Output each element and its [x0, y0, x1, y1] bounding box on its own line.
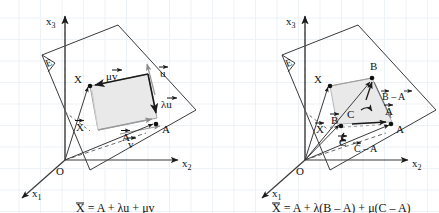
right-diagram: x3 x2 x1 O E X A B C X A B C B – A: [262, 15, 436, 213]
vector-label-X: X: [315, 123, 324, 135]
left-equation: X = A + λu + μv: [76, 201, 155, 213]
point-X-dot: [88, 84, 93, 89]
point-label-X: X: [314, 73, 322, 85]
svg-text:μv: μv: [106, 70, 118, 82]
right-equation: X = A + λ(B – A) + μ(C – A): [272, 201, 411, 213]
vector-geometry-figure: x3 x2 x1 O E X A X A u v λu: [0, 0, 439, 213]
left-diagram: x3 x2 x1 O E X A X A u v λu: [22, 15, 196, 213]
svg-text:X: X: [76, 121, 84, 133]
point-A-dot: [154, 122, 159, 127]
point-label-X: X: [74, 73, 82, 85]
vector-label-C: C: [338, 136, 347, 148]
axis-x2-label: x2: [412, 157, 422, 172]
point-B-dot: [370, 76, 375, 81]
svg-text:A: A: [385, 105, 393, 117]
svg-text:B – A: B – A: [382, 91, 406, 102]
vector-label-A: A: [384, 105, 393, 117]
axis-x3-label: x3: [46, 15, 56, 30]
svg-text:X: X: [316, 123, 324, 135]
origin-label-O: O: [56, 165, 64, 177]
vector-label-lambda-u: λu: [161, 98, 177, 110]
point-C-dot: [339, 124, 344, 129]
axis-x1-label: x1: [32, 187, 42, 202]
point-label-A: A: [396, 123, 404, 135]
parallelogram-shaded: [90, 74, 157, 130]
vector-label-B-minus-A: B – A: [381, 91, 412, 102]
origin-label-O: O: [296, 165, 304, 177]
svg-text:C: C: [339, 136, 346, 148]
axis-x3-label: x3: [286, 15, 296, 30]
svg-text:B: B: [331, 114, 338, 126]
svg-text:u: u: [160, 67, 166, 79]
vector-label-X: X: [75, 121, 84, 134]
vector-label-u: u: [159, 67, 168, 79]
dashed-A-projection: [65, 133, 146, 160]
point-label-C: C: [347, 108, 354, 120]
svg-text:λu: λu: [161, 98, 172, 110]
svg-text:X = A + λu + μv: X = A + λu + μv: [76, 201, 155, 213]
point-label-B: B: [370, 60, 377, 72]
axis-x1-label: x1: [272, 187, 282, 202]
axis-x2-label: x2: [182, 157, 192, 172]
plane-label-E: E: [44, 56, 54, 68]
vector-label-B: B: [330, 114, 339, 126]
svg-text:v: v: [128, 138, 134, 150]
vector-label-v: v: [127, 138, 136, 150]
svg-text:C – A: C – A: [354, 143, 378, 154]
svg-text:X = A + λ(B – A) + μ(C – A): X = A + λ(B – A) + μ(C – A): [272, 201, 411, 213]
vector-label-C-minus-A: C – A: [353, 143, 378, 154]
point-label-A: A: [162, 123, 170, 135]
point-A-dot: [389, 122, 394, 127]
plane-label-E: E: [284, 56, 294, 68]
point-X-dot: [328, 84, 333, 89]
